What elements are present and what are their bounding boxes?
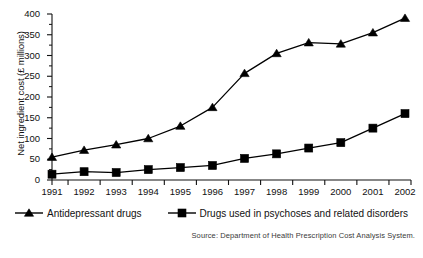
square-marker-icon <box>112 169 120 177</box>
triangle-marker-icon <box>400 14 409 21</box>
square-marker-icon <box>178 209 186 217</box>
square-marker-icon <box>337 139 345 147</box>
square-marker-icon <box>241 154 249 162</box>
chart-legend: Antidepressant drugsDrugs used in psycho… <box>0 203 423 223</box>
legend-item-1: Antidepressant drugs <box>15 207 142 219</box>
square-marker-icon <box>305 144 313 152</box>
series-1 <box>47 14 409 161</box>
chart-canvas <box>0 0 423 200</box>
legend-item-2: Drugs used in psychoses and related diso… <box>168 207 408 219</box>
triangle-marker-icon <box>15 207 43 219</box>
square-marker-icon <box>176 164 184 172</box>
data-series-group <box>47 14 409 178</box>
square-marker-icon <box>48 170 56 178</box>
triangle-marker-icon <box>144 134 153 141</box>
square-marker-icon <box>168 207 196 219</box>
triangle-marker-icon <box>176 122 185 129</box>
triangle-marker-icon <box>368 28 377 35</box>
series-2 <box>48 110 409 179</box>
series-line <box>52 18 405 157</box>
legend-label: Drugs used in psychoses and related diso… <box>200 208 408 219</box>
triangle-marker-icon <box>240 69 249 76</box>
line-chart-figure: Net ingredient cost (£ millions) 0501001… <box>0 0 423 258</box>
series-line <box>52 114 405 175</box>
square-marker-icon <box>144 166 152 174</box>
square-marker-icon <box>273 150 281 158</box>
plot-area: Net ingredient cost (£ millions) 0501001… <box>0 0 423 200</box>
legend-label: Antidepressant drugs <box>47 208 142 219</box>
square-marker-icon <box>401 110 409 118</box>
square-marker-icon <box>369 124 377 132</box>
square-marker-icon <box>208 161 216 169</box>
axes-group <box>47 14 411 185</box>
square-marker-icon <box>80 168 88 176</box>
source-note: Source: Department of Health Prescriptio… <box>192 231 415 240</box>
